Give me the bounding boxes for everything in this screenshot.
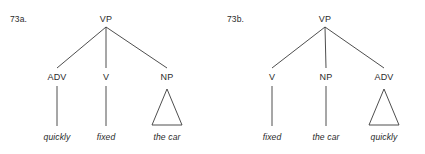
triangle-adv-quickly bbox=[369, 89, 399, 125]
branch-vp-to-np bbox=[106, 27, 167, 68]
branch-vp-to-adv bbox=[325, 27, 384, 68]
node-vp-73b: VP bbox=[319, 14, 331, 24]
terminal-fixed-73a: fixed bbox=[97, 132, 116, 142]
terminal-quickly-73b: quickly bbox=[371, 132, 398, 142]
figure-label-73b: 73b. bbox=[227, 14, 244, 24]
node-v-73b: V bbox=[269, 72, 275, 82]
node-np-73b: NP bbox=[320, 72, 333, 82]
terminal-fixed-73b: fixed bbox=[263, 132, 282, 142]
node-vp-73a: VP bbox=[100, 14, 112, 24]
terminal-quickly-73a: quickly bbox=[44, 132, 71, 142]
terminal-the-car-73a: the car bbox=[154, 132, 181, 142]
triangle-np-the-car bbox=[152, 89, 182, 125]
node-adv-73a: ADV bbox=[47, 72, 66, 82]
branch-vp-to-adv bbox=[57, 27, 106, 68]
node-adv-73b: ADV bbox=[374, 72, 393, 82]
figure-label-73a: 73a. bbox=[10, 14, 27, 24]
terminal-the-car-73b: the car bbox=[313, 132, 340, 142]
syntax-tree-figure: 73a. VP ADV V NP quickly fixed the car 7… bbox=[0, 0, 425, 154]
branch-vp-to-v bbox=[272, 27, 325, 68]
branch-vp-to-np bbox=[325, 27, 326, 68]
node-v-73a: V bbox=[103, 72, 109, 82]
node-np-73a: NP bbox=[161, 72, 174, 82]
